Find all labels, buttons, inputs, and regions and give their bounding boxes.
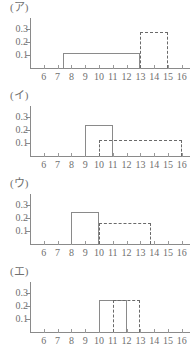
x-tick	[154, 329, 155, 333]
y-tick-label: 0.2	[4, 37, 28, 47]
y-tick-label: 0.2	[4, 301, 28, 311]
histogram-panel: (ウ)0.10.20.3678910111213141516	[0, 176, 196, 264]
x-tick	[44, 241, 45, 245]
plot-area: 0.10.20.3678910111213141516	[0, 176, 196, 264]
x-tick	[58, 65, 59, 69]
x-tick-label: 16	[174, 247, 190, 259]
x-tick	[182, 65, 183, 69]
x-tick-label: 16	[174, 335, 190, 347]
x-tick	[168, 241, 169, 245]
y-tick-label: 0.1	[4, 50, 28, 60]
histogram-bar-dashed	[113, 300, 141, 332]
y-tick-label: 0.3	[4, 112, 28, 122]
histogram-panel: (イ)0.10.20.3678910111213141516	[0, 88, 196, 176]
histogram-bar-dashed	[99, 223, 151, 244]
x-tick	[44, 329, 45, 333]
x-tick-label: 16	[174, 71, 190, 83]
x-tick	[182, 329, 183, 333]
x-tick	[58, 153, 59, 157]
y-axis-line	[30, 18, 31, 69]
x-tick-label: 16	[174, 159, 190, 171]
x-axis-line	[30, 244, 190, 245]
y-axis-line	[30, 282, 31, 333]
x-tick	[168, 65, 169, 69]
y-tick-label: 0.3	[4, 200, 28, 210]
x-tick	[168, 329, 169, 333]
y-axis-line	[30, 194, 31, 245]
plot-area: 0.10.20.3678910111213141516	[0, 264, 196, 352]
x-tick	[71, 329, 72, 333]
y-tick-label: 0.2	[4, 125, 28, 135]
x-axis-line	[30, 68, 190, 69]
histogram-panel: (ア)0.10.20.3678910111213141516	[0, 0, 196, 88]
y-tick-label: 0.3	[4, 288, 28, 298]
plot-area: 0.10.20.3678910111213141516	[0, 88, 196, 176]
histogram-panel: (エ)0.10.20.3678910111213141516	[0, 264, 196, 352]
y-tick-label: 0.1	[4, 138, 28, 148]
histogram-panel-group: (ア)0.10.20.3678910111213141516(イ)0.10.20…	[0, 0, 196, 355]
x-tick	[154, 241, 155, 245]
histogram-bar-dashed	[99, 140, 182, 156]
x-tick	[182, 153, 183, 157]
histogram-bar-solid	[71, 212, 99, 245]
y-tick-label: 0.2	[4, 213, 28, 223]
x-tick	[71, 153, 72, 157]
y-axis-line	[30, 106, 31, 157]
x-axis-line	[30, 332, 190, 333]
x-axis-line	[30, 156, 190, 157]
x-tick	[44, 153, 45, 157]
y-tick-label: 0.3	[4, 24, 28, 34]
x-tick	[58, 241, 59, 245]
plot-area: 0.10.20.3678910111213141516	[0, 0, 196, 88]
x-tick	[85, 329, 86, 333]
y-tick-label: 0.1	[4, 314, 28, 324]
y-tick-label: 0.1	[4, 226, 28, 236]
x-tick	[182, 241, 183, 245]
x-tick	[44, 65, 45, 69]
histogram-bar-dashed	[140, 32, 168, 68]
x-tick	[58, 329, 59, 333]
histogram-bar-solid	[63, 53, 140, 68]
x-tick	[140, 329, 141, 333]
